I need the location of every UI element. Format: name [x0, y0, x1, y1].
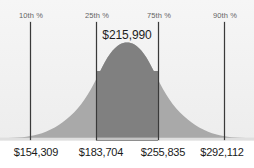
percentile-distribution-chart: 10th % 25th % 75th % 90th % $215,990 $15…: [0, 0, 254, 168]
percentile-line-25: [96, 22, 97, 140]
percentile-label-75: 75th %: [147, 11, 171, 20]
percentile-label-25: 25th %: [85, 11, 109, 20]
bell-curve-graphic: [0, 0, 254, 141]
axis-label-p10: $154,309: [14, 145, 58, 159]
percentile-label-90: 90th %: [213, 11, 237, 20]
median-value-label: $215,990: [102, 28, 151, 42]
percentile-label-10: 10th %: [19, 11, 43, 20]
percentile-line-90: [224, 22, 225, 140]
percentile-line-10: [30, 22, 31, 140]
axis-value-labels: $154,309 $183,704 $255,835 $292,112: [0, 145, 254, 168]
percentile-line-75: [158, 22, 159, 140]
chart-plot-area: 10th % 25th % 75th % 90th % $215,990: [0, 0, 254, 141]
axis-label-p75: $255,835: [141, 145, 185, 159]
axis-label-p90: $292,112: [200, 145, 243, 159]
axis-label-p25: $183,704: [79, 145, 123, 159]
